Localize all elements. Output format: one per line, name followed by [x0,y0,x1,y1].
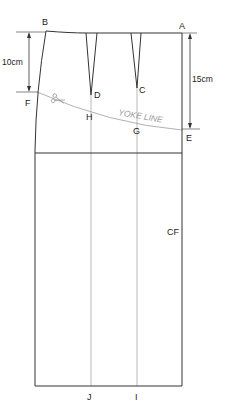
dimension-right-label: 15cm [192,74,213,84]
yoke-line-label: YOKE LINE [118,107,164,125]
point-j-label: J [87,392,92,402]
point-f-label: F [25,98,31,108]
dimension-left-arrow [27,32,31,92]
point-b-label: B [42,17,48,27]
point-d-label: D [94,90,101,100]
point-g-label: G [133,126,140,136]
skirt-pattern-diagram: B A D C F H G E J I 10cm 15cm YOKE LINE … [0,0,228,420]
center-front-label: CF [167,227,179,237]
point-i-label: I [135,392,138,402]
point-h-label: H [86,112,93,122]
waist-line [46,31,182,33]
side-seam [35,31,46,386]
scissors-icon [51,93,66,106]
dart-d [86,33,97,95]
point-c-label: C [139,85,146,95]
point-a-label: A [179,21,185,31]
dimension-left-label: 10cm [2,57,23,67]
point-e-label: E [186,133,192,143]
dart-c [131,33,141,88]
